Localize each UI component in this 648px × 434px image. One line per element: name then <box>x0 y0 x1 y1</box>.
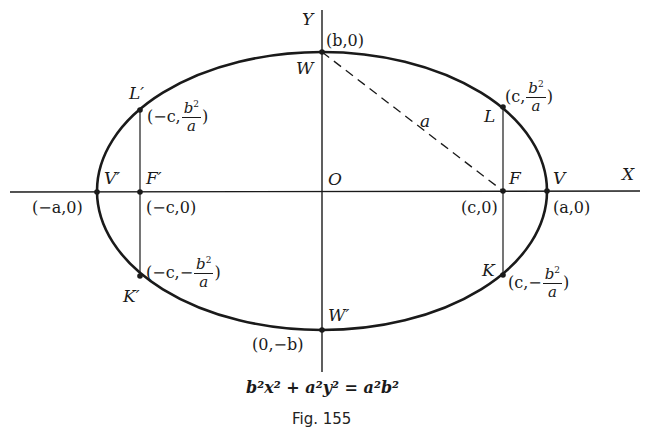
x-axis-label: X <box>622 166 634 183</box>
coord-l-prefix: (c, <box>505 89 525 105</box>
label-v: V <box>553 170 565 187</box>
coord-k-den: a <box>548 284 557 300</box>
coord-k-prime-num: b <box>196 255 206 273</box>
coord-w-prime: (0,−b) <box>252 337 303 353</box>
label-a-segment: a <box>420 113 430 130</box>
coord-l-prime-num: b <box>184 99 194 117</box>
point-w <box>319 49 325 55</box>
point-l-prime <box>137 107 143 113</box>
coord-k-prime-sup: 2 <box>206 255 212 265</box>
y-axis-label: Y <box>302 11 313 28</box>
coord-l: (c, b2 a ) <box>505 80 553 114</box>
coord-l-prime-fraction: b2 a <box>182 100 201 134</box>
coord-f: (c,0) <box>461 200 498 216</box>
coord-k-fraction: b2 a <box>543 266 562 300</box>
dashed-segment-a <box>322 52 503 191</box>
coord-l-suffix: ) <box>547 89 553 105</box>
label-v-prime: V′ <box>104 170 120 187</box>
coord-k: (c,− b2 a ) <box>508 266 569 300</box>
ellipse-equation: b²x² + a²y² = a²b² <box>246 378 399 397</box>
ellipse-figure: Y X O W W′ V V′ F F′ L L′ K K′ a (b,0) (… <box>0 0 648 434</box>
label-l: L <box>484 108 495 125</box>
label-f-prime: F′ <box>146 170 162 187</box>
coord-w: (b,0) <box>326 33 364 49</box>
point-w-prime <box>319 327 325 333</box>
coord-v-prime: (−a,0) <box>32 200 83 216</box>
coord-v: (a,0) <box>553 200 590 216</box>
point-f-prime <box>137 189 143 195</box>
label-l-prime: L′ <box>129 85 144 102</box>
label-f: F <box>509 170 521 187</box>
coord-k-sup: 2 <box>554 265 560 275</box>
coord-k-prime-prefix: (−c,− <box>146 265 193 281</box>
coord-l-den: a <box>531 98 540 114</box>
coord-k-prime-den: a <box>199 274 208 290</box>
coord-f-prime: (−c,0) <box>146 200 196 216</box>
point-k-prime <box>137 273 143 279</box>
coord-l-sup: 2 <box>538 79 544 89</box>
point-v <box>544 188 550 194</box>
label-w: W <box>296 60 313 77</box>
coord-l-prime-prefix: (−c, <box>147 109 181 125</box>
coord-l-fraction: b2 a <box>526 80 545 114</box>
coord-l-num: b <box>528 79 538 97</box>
coord-l-prime: (−c, b2 a ) <box>147 100 208 134</box>
coord-k-suffix: ) <box>563 275 569 291</box>
coord-k-prime-suffix: ) <box>214 265 220 281</box>
label-w-prime: W′ <box>328 307 349 324</box>
coord-l-prime-suffix: ) <box>202 109 208 125</box>
coord-l-prime-sup: 2 <box>193 99 199 109</box>
coord-k-prefix: (c,− <box>508 275 542 291</box>
figure-caption: Fig. 155 <box>292 410 351 428</box>
label-k: K <box>482 262 495 279</box>
coord-k-num: b <box>545 265 555 283</box>
point-v-prime <box>94 189 100 195</box>
label-k-prime: K′ <box>123 288 140 305</box>
coord-k-prime-fraction: b2 a <box>194 256 213 290</box>
ellipse-diagram-svg <box>0 0 648 434</box>
origin-label: O <box>328 171 342 188</box>
coord-l-prime-den: a <box>187 118 196 134</box>
coord-k-prime: (−c,− b2 a ) <box>146 256 221 290</box>
point-k <box>500 272 506 278</box>
point-f <box>500 188 506 194</box>
